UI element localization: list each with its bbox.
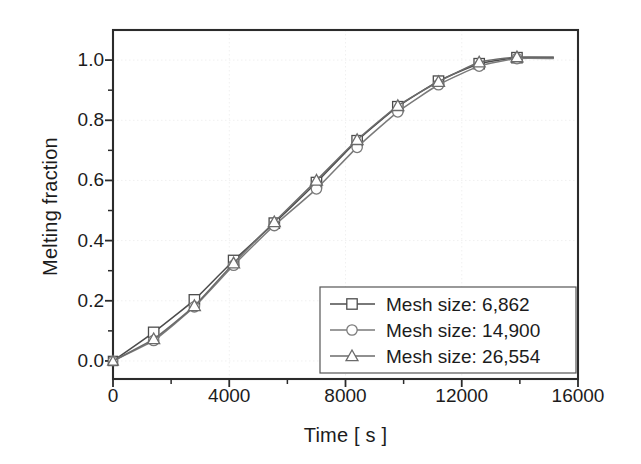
marker-circle [347,325,357,335]
legend-label: Mesh size: 14,900 [386,320,540,341]
x-tick-label: 0 [108,385,119,407]
x-tick-label: 16000 [552,385,605,407]
chart-figure: Mesh size: 6,862Mesh size: 14,900Mesh si… [0,0,641,464]
marker-square [347,299,357,309]
legend-box[interactable]: Mesh size: 6,862Mesh size: 14,900Mesh si… [320,287,576,373]
x-tick-label: 8000 [324,385,366,407]
y-axis-title: Melting fraction [39,47,62,367]
y-tick-label: 0.4 [78,230,104,252]
y-tick-label: 1.0 [78,49,104,71]
y-tick-label: 0.2 [78,290,104,312]
y-tick-label: 0.8 [78,109,104,131]
x-axis-title: Time [ s ] [0,424,641,447]
x-tick-label: 4000 [208,385,250,407]
y-tick-label: 0.0 [78,350,104,372]
y-tick-label: 0.6 [78,169,104,191]
x-tick-label: 12000 [435,385,488,407]
legend-label: Mesh size: 26,554 [386,346,541,367]
legend-label: Mesh size: 6,862 [386,294,530,315]
